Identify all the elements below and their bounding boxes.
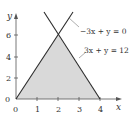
y-tick-label: 2 (6, 74, 11, 83)
x-tick-label: 4 (98, 105, 103, 114)
y-axis-arrow-icon (14, 13, 18, 19)
x-tick-label: 0 (13, 105, 18, 114)
equation-label-2: 3x + y = 12 (84, 46, 129, 55)
y-tick-label: 0 (5, 95, 10, 104)
x-tick-label: 1 (35, 105, 40, 114)
eq1-leader (69, 18, 79, 27)
equation-label-1: −3x + y = 0 (80, 27, 127, 36)
y-tick-label: 6 (6, 31, 11, 40)
shaded-region (16, 35, 100, 99)
x-axis-arrow-icon (116, 97, 122, 101)
y-axis-label: y (6, 11, 13, 21)
linear-inequality-graph: −3x + y = 0 3x + y = 12 0 1 2 3 4 0 2 4 … (0, 0, 129, 115)
x-axis-label: x (116, 102, 121, 112)
y-tick-label: 4 (6, 53, 11, 62)
x-tick-label: 2 (56, 105, 61, 114)
x-tick-label: 3 (77, 105, 82, 114)
